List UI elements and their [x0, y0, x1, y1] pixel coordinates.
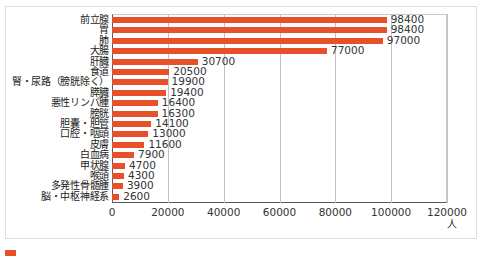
bar — [112, 48, 327, 54]
bar — [112, 173, 124, 179]
bar — [112, 79, 168, 85]
bar-row: 16400 — [112, 99, 447, 107]
bar-row: 3900 — [112, 182, 447, 190]
bar — [112, 121, 151, 127]
bar — [112, 90, 166, 96]
bar — [112, 131, 148, 137]
bar-row: 97000 — [112, 37, 447, 45]
category-label: 脳・中枢神経系 — [0, 192, 109, 202]
bar — [112, 17, 387, 23]
bar-row: 2600 — [112, 193, 447, 201]
category-label: 口腔・咽頭 — [0, 129, 109, 139]
bar — [112, 183, 123, 189]
bar-row: 30700 — [112, 58, 447, 66]
bar — [112, 152, 134, 158]
bar-row: 4300 — [112, 172, 447, 180]
category-label: 多発性骨髄腫 — [0, 181, 109, 191]
category-label: 白血病 — [0, 150, 109, 160]
bar — [112, 59, 198, 65]
bar-row: 77000 — [112, 47, 447, 55]
bar-row: 20500 — [112, 68, 447, 76]
bar-row: 19900 — [112, 78, 447, 86]
bar — [112, 111, 158, 117]
category-label: 前立腺 — [0, 15, 109, 25]
chart-plot-area: 9840098400970007700030700205001990019400… — [112, 14, 447, 203]
bar — [112, 194, 119, 200]
bar — [112, 69, 169, 75]
bar — [112, 100, 158, 106]
figure-container: 9840098400970007700030700205001990019400… — [0, 0, 485, 256]
bar-value-label: 2600 — [123, 191, 150, 202]
caption-color-swatch — [5, 250, 16, 256]
category-label: 胃 — [0, 25, 109, 35]
bar-value-label: 97000 — [387, 35, 420, 46]
category-label: 腎・尿路（膀胱除く） — [0, 77, 109, 87]
figure-caption-cropped — [5, 249, 305, 256]
bar-row: 4700 — [112, 162, 447, 170]
bar — [112, 142, 144, 148]
category-label: 悪性リンパ腫 — [0, 98, 109, 108]
gridline-120000 — [447, 14, 448, 203]
bar-value-label: 30700 — [202, 56, 235, 67]
category-label: 大腸 — [0, 46, 109, 56]
bar-value-label: 77000 — [331, 45, 364, 56]
bar-row: 7900 — [112, 151, 447, 159]
bar — [112, 38, 383, 44]
bar — [112, 27, 387, 33]
x-axis-unit-label: 人 — [447, 216, 457, 231]
bar — [112, 163, 125, 169]
